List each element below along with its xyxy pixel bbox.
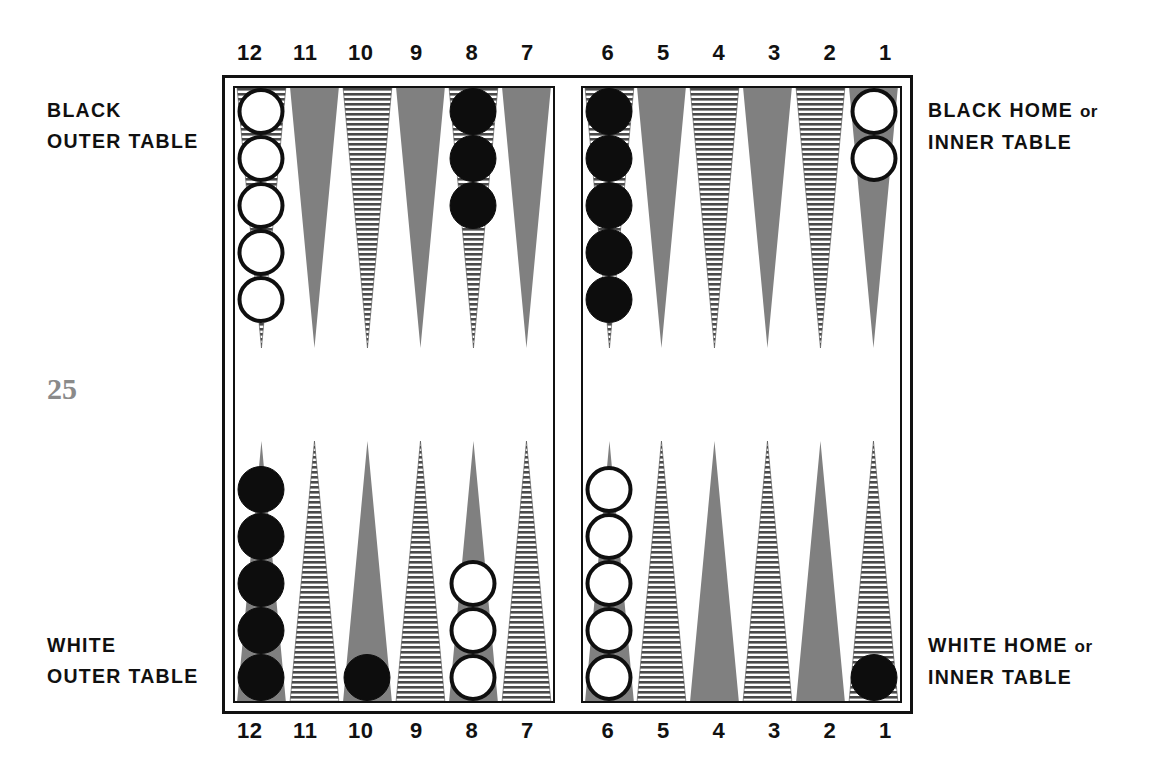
- point-column: [341, 88, 394, 701]
- label-white-home-text: WHITE HOME: [928, 634, 1068, 656]
- label-white-home-table: WHITE HOME or INNER TABLE: [928, 630, 1093, 693]
- label-black-home-text: BLACK HOME: [928, 99, 1073, 121]
- point-2-bottom[interactable]: [794, 441, 847, 701]
- point-column: [500, 88, 553, 701]
- board-inner-frame: [233, 86, 902, 703]
- page-number: 25: [47, 374, 77, 404]
- point-3-top[interactable]: [741, 88, 794, 348]
- point-number-2: 2: [802, 718, 858, 748]
- point-column: [235, 88, 288, 701]
- point-numbers-bottom: 121110987 654321: [222, 718, 913, 748]
- point-number-3: 3: [747, 40, 803, 70]
- point-number-9: 9: [389, 718, 445, 748]
- label-black-outer-table: BLACK OUTER TABLE: [47, 95, 199, 157]
- point-number-12: 12: [222, 40, 278, 70]
- point-number-10: 10: [333, 40, 389, 70]
- label-white-outer-line1: WHITE: [47, 630, 199, 661]
- point-12-bottom[interactable]: [235, 441, 288, 701]
- point-numbers-top-left: 121110987: [222, 40, 555, 70]
- point-column: [847, 88, 900, 701]
- label-black-outer-line2: OUTER TABLE: [47, 126, 199, 157]
- point-column: [794, 88, 847, 701]
- point-column: [288, 88, 341, 701]
- point-9-top[interactable]: [394, 88, 447, 348]
- point-6-top[interactable]: [583, 88, 636, 348]
- point-number-4: 4: [691, 40, 747, 70]
- point-6-bottom[interactable]: [583, 441, 636, 701]
- point-numbers-bottom-left: 121110987: [222, 718, 555, 748]
- label-white-home-line1: WHITE HOME or: [928, 630, 1093, 662]
- point-column: [741, 88, 794, 701]
- point-column: [447, 88, 500, 701]
- point-number-8: 8: [444, 718, 500, 748]
- inner-table-half: [581, 86, 903, 703]
- point-3-bottom[interactable]: [741, 441, 794, 701]
- point-number-5: 5: [636, 718, 692, 748]
- label-black-home-conj: or: [1080, 102, 1098, 121]
- point-number-9: 9: [389, 40, 445, 70]
- point-number-2: 2: [802, 40, 858, 70]
- backgammon-board: [222, 75, 913, 714]
- label-black-home-line2: INNER TABLE: [928, 127, 1098, 158]
- point-number-7: 7: [500, 718, 556, 748]
- label-white-home-conj: or: [1074, 637, 1092, 656]
- point-4-top[interactable]: [688, 88, 741, 348]
- bar-spacer-top: [555, 40, 580, 70]
- point-number-1: 1: [858, 40, 914, 70]
- point-number-4: 4: [691, 718, 747, 748]
- point-number-1: 1: [858, 718, 914, 748]
- outer-table-half: [233, 86, 555, 703]
- label-black-home-table: BLACK HOME or INNER TABLE: [928, 95, 1098, 158]
- point-number-11: 11: [278, 40, 334, 70]
- point-5-bottom[interactable]: [635, 441, 688, 701]
- point-11-bottom[interactable]: [288, 441, 341, 701]
- point-5-top[interactable]: [635, 88, 688, 348]
- point-12-top[interactable]: [235, 88, 288, 348]
- point-number-3: 3: [747, 718, 803, 748]
- point-number-12: 12: [222, 718, 278, 748]
- point-number-6: 6: [580, 40, 636, 70]
- point-number-5: 5: [636, 40, 692, 70]
- point-10-top[interactable]: [341, 88, 394, 348]
- label-white-home-line2: INNER TABLE: [928, 662, 1093, 693]
- point-11-top[interactable]: [288, 88, 341, 348]
- point-8-bottom[interactable]: [447, 441, 500, 701]
- point-7-bottom[interactable]: [500, 441, 553, 701]
- point-column: [583, 88, 636, 701]
- point-column: [688, 88, 741, 701]
- point-8-top[interactable]: [447, 88, 500, 348]
- point-4-bottom[interactable]: [688, 441, 741, 701]
- points-layer-right: [583, 88, 901, 701]
- point-number-8: 8: [444, 40, 500, 70]
- points-layer-left: [235, 88, 553, 701]
- point-number-6: 6: [580, 718, 636, 748]
- point-10-bottom[interactable]: [341, 441, 394, 701]
- point-numbers-bottom-right: 654321: [580, 718, 913, 748]
- point-column: [394, 88, 447, 701]
- point-7-top[interactable]: [500, 88, 553, 348]
- point-9-bottom[interactable]: [394, 441, 447, 701]
- label-white-outer-line2: OUTER TABLE: [47, 661, 199, 692]
- point-number-7: 7: [500, 40, 556, 70]
- label-white-outer-table: WHITE OUTER TABLE: [47, 630, 199, 692]
- point-1-bottom[interactable]: [847, 441, 900, 701]
- bar-spacer-bottom: [555, 718, 580, 748]
- label-black-outer-line1: BLACK: [47, 95, 199, 126]
- point-number-11: 11: [278, 718, 334, 748]
- board-bar: [555, 86, 581, 703]
- point-1-top[interactable]: [847, 88, 900, 348]
- point-numbers-top-right: 654321: [580, 40, 913, 70]
- point-numbers-top: 121110987 654321: [222, 40, 913, 70]
- point-column: [635, 88, 688, 701]
- label-black-home-line1: BLACK HOME or: [928, 95, 1098, 127]
- point-2-top[interactable]: [794, 88, 847, 348]
- point-number-10: 10: [333, 718, 389, 748]
